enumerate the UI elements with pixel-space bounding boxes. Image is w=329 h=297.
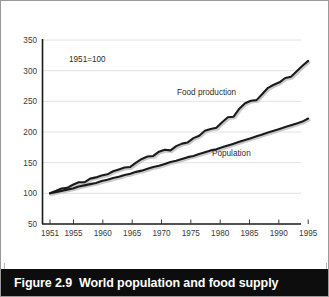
- x-tick-label: 1990: [270, 229, 289, 238]
- series-label-population: Population: [212, 149, 251, 158]
- y-tick-label: 350: [23, 36, 37, 45]
- series-line-food-production: [50, 61, 308, 193]
- data-series: [50, 61, 308, 193]
- figure-caption-text: World population and food supply: [79, 276, 278, 290]
- x-tick-label: 1965: [123, 229, 142, 238]
- y-tick-label: 150: [23, 159, 37, 168]
- chart-plot-area: 350 300 250 200 150 100 50 1951 1955 196…: [1, 1, 329, 263]
- series-label-food-production: Food production: [177, 88, 237, 97]
- y-tick-label: 100: [23, 189, 37, 198]
- x-tick-label: 1995: [299, 229, 318, 238]
- x-tick-label: 1951: [41, 229, 60, 238]
- line-chart: 350 300 250 200 150 100 50 1951 1955 196…: [1, 1, 329, 263]
- index-base-annotation: 1951=100: [69, 55, 106, 64]
- x-tick-label: 1955: [64, 229, 83, 238]
- x-axis-tick-labels: 1951 1955 1960 1965 1970 1975 1980 1985 …: [41, 229, 318, 238]
- x-tick-label: 1985: [240, 229, 259, 238]
- y-axis-tick-labels: 350 300 250 200 150 100 50: [23, 36, 37, 229]
- y-tick-label: 250: [23, 97, 37, 106]
- y-tick-label: 50: [28, 220, 38, 229]
- y-tick-label: 200: [23, 128, 37, 137]
- y-tick-label: 300: [23, 67, 37, 76]
- series-shadows: [51, 62, 309, 194]
- x-tick-label: 1970: [152, 229, 171, 238]
- x-tick-label: 1960: [94, 229, 113, 238]
- x-tick-label: 1980: [211, 229, 230, 238]
- figure-caption-bar: Figure 2.9 World population and food sup…: [1, 269, 329, 296]
- figure-container: 350 300 250 200 150 100 50 1951 1955 196…: [0, 0, 329, 297]
- figure-number: Figure 2.9: [14, 276, 72, 290]
- x-tick-label: 1975: [182, 229, 201, 238]
